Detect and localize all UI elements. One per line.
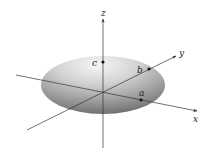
point-b-label: b: [137, 65, 143, 75]
y-axis-label: y: [178, 48, 185, 58]
z-axis-label: z: [100, 8, 106, 18]
ellipsoid-diagram: z y x c b a: [0, 0, 214, 154]
point-b: [147, 67, 150, 70]
point-c: [101, 60, 104, 63]
point-a-label: a: [139, 88, 144, 98]
x-axis-label: x: [193, 114, 198, 124]
point-c-label: c: [92, 58, 97, 68]
point-a: [139, 98, 142, 101]
